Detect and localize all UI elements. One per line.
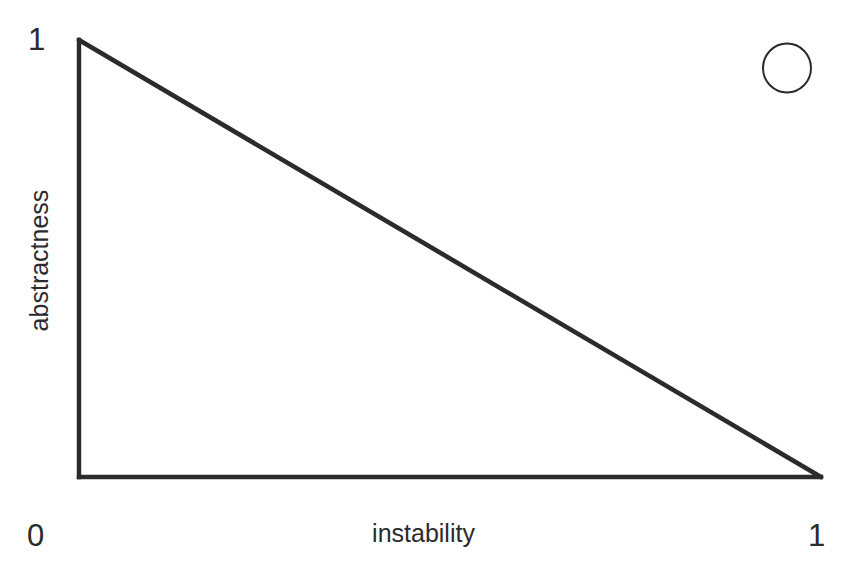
y-axis-title-text: abstractness — [28, 189, 53, 331]
abstractness-instability-figure: 1 0 1 abstractness instability — [0, 0, 845, 580]
y-axis-max-tick-label: 1 — [28, 24, 45, 55]
empty-circle-marker — [763, 44, 811, 93]
y-axis-title: abstractness — [0, 180, 80, 340]
main-sequence-line — [79, 40, 821, 477]
x-axis-title: instability — [0, 521, 845, 546]
x-axis-title-text: instability — [372, 521, 475, 546]
plot-canvas — [0, 0, 845, 580]
